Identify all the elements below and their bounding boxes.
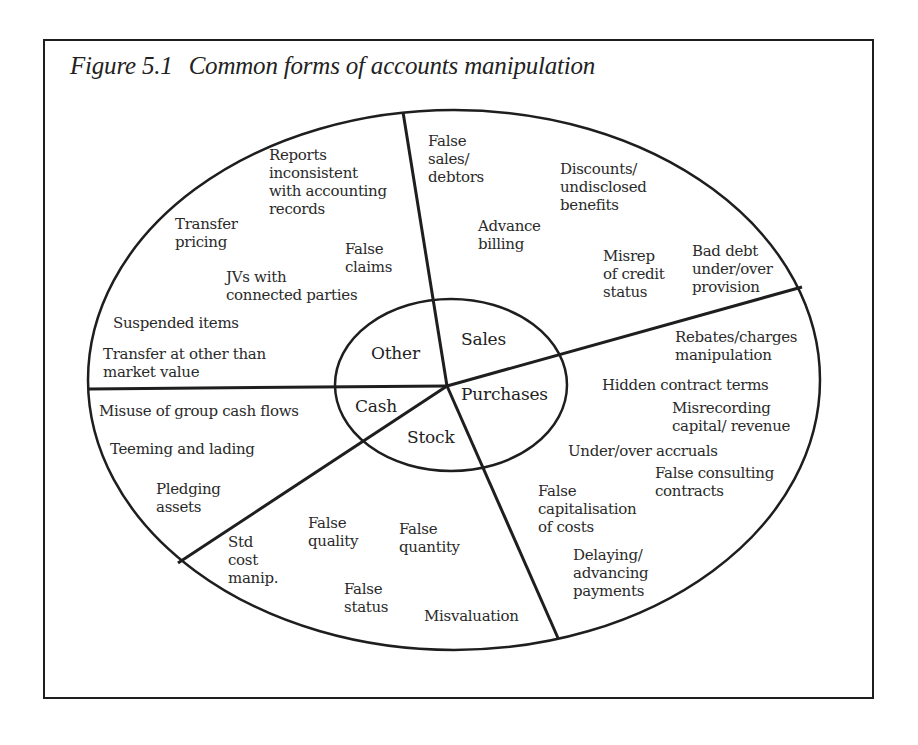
item-jvs-connected-parties: JVs with connected parties — [226, 268, 357, 304]
item-transfer-pricing: Transfer pricing — [175, 215, 238, 251]
item-hidden-contract-terms: Hidden contract terms — [602, 376, 769, 394]
item-under-over-accruals: Under/over accruals — [568, 442, 718, 460]
divider-cash-other — [89, 386, 447, 389]
item-transfer-other-than-market: Transfer at other than market value — [103, 345, 266, 381]
item-misrep-credit-status: Misrep of credit status — [603, 247, 665, 301]
item-false-status: False status — [344, 580, 388, 616]
item-discounts-undisclosed: Discounts/ undisclosed benefits — [560, 160, 647, 214]
item-suspended-items: Suspended items — [113, 314, 239, 332]
item-false-consulting-contracts: False consulting contracts — [655, 464, 774, 500]
category-cash: Cash — [355, 396, 397, 416]
category-other: Other — [371, 343, 420, 363]
item-std-cost-manip: Std cost manip. — [228, 533, 278, 587]
item-bad-debt-provision: Bad debt under/over provision — [692, 242, 773, 296]
item-pledging-assets: Pledging assets — [156, 480, 221, 516]
category-sales: Sales — [461, 329, 506, 349]
item-misrecording-capital-revenue: Misrecording capital/ revenue — [672, 399, 790, 435]
item-false-capitalisation: False capitalisation of costs — [538, 482, 636, 536]
item-advance-billing: Advance billing — [478, 217, 541, 253]
item-misvaluation: Misvaluation — [424, 607, 519, 625]
category-purchases: Purchases — [461, 384, 548, 404]
item-false-sales-debtors: False sales/ debtors — [428, 132, 484, 186]
item-misuse-group-cash-flows: Misuse of group cash flows — [99, 402, 299, 420]
category-stock: Stock — [407, 427, 455, 447]
item-rebates-charges: Rebates/charges manipulation — [675, 328, 797, 364]
item-false-quantity: False quantity — [399, 520, 460, 556]
item-reports-inconsistent: Reports inconsistent with accounting rec… — [269, 146, 387, 218]
item-delaying-advancing-payments: Delaying/ advancing payments — [573, 546, 648, 600]
item-teeming-lading: Teeming and lading — [110, 440, 255, 458]
item-false-quality: False quality — [308, 514, 358, 550]
